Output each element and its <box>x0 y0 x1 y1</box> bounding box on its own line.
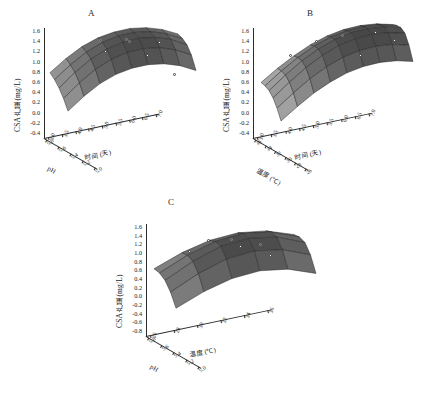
panel-a-surface <box>44 26 204 146</box>
axis-tickmark <box>271 134 272 137</box>
axis-tickmark <box>244 315 245 318</box>
z-tick: 1.4 <box>241 38 249 44</box>
z-tick: -0.2 <box>132 302 142 308</box>
z-tick: 1.4 <box>134 233 142 239</box>
axis-tickmark <box>129 120 130 123</box>
axis-name: 温度 (℃) <box>188 344 217 359</box>
z-tick: -0.8 <box>132 328 142 334</box>
z-tick: 0.8 <box>241 69 249 75</box>
z-tick: 0.4 <box>134 276 142 282</box>
axis-name: pH <box>47 165 57 175</box>
axis-name: 温度 (℃) <box>255 165 283 187</box>
z-tick: -0.2 <box>30 120 40 126</box>
axis-name: pH <box>149 363 159 373</box>
axis-tickmark <box>173 330 174 333</box>
panel-b-surface <box>253 26 423 146</box>
axis-name: 时间 (天) <box>293 146 322 161</box>
z-tick: 0.0 <box>134 293 142 299</box>
axis-tickmark <box>341 119 342 122</box>
z-tick: -0.2 <box>239 120 249 126</box>
panel-c-zaxis-ticks: 1.61.41.21.00.80.60.40.20.0-0.2-0.4-0.6-… <box>126 224 142 334</box>
z-tick: 1.6 <box>32 28 40 34</box>
panel-b-zaxis-ticks: 1.61.41.21.00.80.60.40.20.0-0.2-0.4 <box>233 28 249 136</box>
axis-tickmark <box>368 113 369 116</box>
z-tick: 1.2 <box>134 241 142 247</box>
axis-tickmark <box>142 117 143 120</box>
axis-tickmark <box>150 335 151 338</box>
panel-c-zaxis-label: CSA产量 (mg/L) <box>114 236 125 328</box>
axis-tickmark <box>267 310 268 313</box>
axis-tickmark <box>313 125 314 128</box>
z-tick: 0.8 <box>32 69 40 75</box>
z-tick: 0.4 <box>241 89 249 95</box>
z-tick: -0.4 <box>132 311 142 317</box>
z-tick: 0.0 <box>241 110 249 116</box>
data-point-marker <box>269 254 272 257</box>
z-tick: 1.2 <box>32 48 40 54</box>
surface-cell <box>255 250 289 271</box>
axis-tickmark <box>220 320 221 323</box>
panel-a-zaxis-label: CSA产量 (mg/L) <box>12 40 23 132</box>
z-tick: 0.4 <box>32 89 40 95</box>
z-tick: 0.6 <box>241 79 249 85</box>
z-tick: 1.6 <box>241 28 249 34</box>
axis-name: 时间 (天) <box>83 147 112 162</box>
axis-tickmark <box>327 122 328 125</box>
data-point-marker <box>128 40 131 43</box>
axis-tickmark <box>156 114 157 117</box>
data-point-marker <box>188 250 191 253</box>
z-tick: -0.6 <box>132 319 142 325</box>
panel-c: C CSA产量 (mg/L) 1.61.41.21.00.80.60.40.20… <box>108 196 338 396</box>
data-point-marker <box>146 54 149 57</box>
z-tick: 1.0 <box>241 59 249 65</box>
axis-tickmark <box>88 128 89 131</box>
z-tick: 1.6 <box>134 224 142 230</box>
axis-tickmark <box>115 123 116 126</box>
z-tick: 1.4 <box>32 38 40 44</box>
data-point-marker <box>158 41 161 44</box>
panel-a-letter: A <box>88 8 95 18</box>
z-tick: 0.6 <box>32 79 40 85</box>
surface-cell <box>283 250 317 274</box>
z-tick: -0.4 <box>239 130 249 136</box>
panel-b-letter: B <box>307 8 313 18</box>
axis-tickmark <box>299 128 300 131</box>
data-point-marker <box>259 243 262 246</box>
figure-root: A CSA产量 (mg/L) 1.61.41.21.00.80.60.40.20… <box>0 0 438 403</box>
axis-tickmark <box>257 137 258 140</box>
z-tick: 1.2 <box>241 48 249 54</box>
panel-c-surface <box>146 222 326 346</box>
panel-b-zaxis-label: CSA产量 (mg/L) <box>221 40 232 132</box>
z-tick: 1.0 <box>134 250 142 256</box>
data-point-marker <box>104 50 107 53</box>
z-tick: 0.8 <box>134 259 142 265</box>
z-tick: 0.6 <box>134 267 142 273</box>
axis-tickmark <box>285 131 286 134</box>
axis-tickmark <box>354 116 355 119</box>
surface-cell <box>249 237 283 251</box>
panel-b: B CSA产量 (mg/L) 1.61.41.21.00.80.60.40.20… <box>215 6 438 196</box>
axis-tickmark <box>75 131 76 134</box>
z-tick: 1.0 <box>32 59 40 65</box>
axis-tickmark <box>102 126 103 129</box>
axis-tickmark <box>48 137 49 140</box>
z-tick: 0.2 <box>32 99 40 105</box>
panel-a-zaxis-ticks: 1.61.41.21.00.80.60.40.20.0-0.2-0.4 <box>24 28 40 136</box>
panel-c-letter: C <box>168 197 174 207</box>
z-tick: 0.2 <box>134 285 142 291</box>
panel-a: A CSA产量 (mg/L) 1.61.41.21.00.80.60.40.20… <box>0 6 210 196</box>
z-tick: 0.2 <box>241 99 249 105</box>
axis-tickmark <box>61 134 62 137</box>
z-tick: -0.4 <box>30 130 40 136</box>
z-tick: 0.0 <box>32 110 40 116</box>
axis-tickmark <box>197 325 198 328</box>
